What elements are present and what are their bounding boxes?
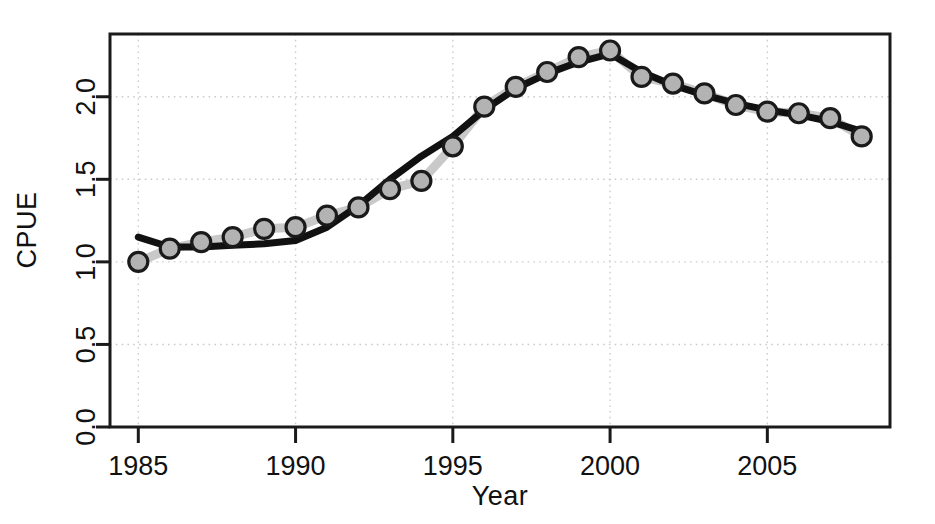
data-point-marker bbox=[412, 171, 431, 190]
y-tick-label: 2.0 bbox=[71, 78, 101, 116]
x-tick-label: 2000 bbox=[580, 451, 640, 481]
data-point-marker bbox=[192, 233, 211, 252]
y-tick-label: 1.0 bbox=[71, 243, 101, 281]
data-point-marker bbox=[286, 218, 305, 237]
data-point-marker bbox=[129, 252, 148, 271]
data-point-marker bbox=[789, 104, 808, 123]
x-tick-label: 1990 bbox=[266, 451, 326, 481]
chart-figure: 0.00.51.01.52.0 19851990199520002005 Yea… bbox=[0, 0, 935, 524]
data-point-marker bbox=[726, 96, 745, 115]
data-point-marker bbox=[443, 137, 462, 156]
data-point-marker bbox=[821, 109, 840, 128]
data-point-marker bbox=[506, 77, 525, 96]
data-point-marker bbox=[601, 41, 620, 60]
data-point-marker bbox=[223, 228, 242, 247]
y-tick-label: 1.5 bbox=[71, 161, 101, 199]
data-point-marker bbox=[569, 48, 588, 67]
cpue-line-chart: 0.00.51.01.52.0 19851990199520002005 Yea… bbox=[0, 0, 935, 524]
y-tick-label: 0.0 bbox=[71, 408, 101, 446]
x-tick-label: 1985 bbox=[108, 451, 168, 481]
x-axis-title: Year bbox=[472, 481, 529, 511]
data-point-marker bbox=[160, 239, 179, 258]
data-point-marker bbox=[349, 198, 368, 217]
data-point-marker bbox=[632, 67, 651, 86]
x-tick-label: 1995 bbox=[423, 451, 483, 481]
y-axis-title: CPUE bbox=[12, 191, 42, 268]
data-point-marker bbox=[538, 62, 557, 81]
y-tick-label: 0.5 bbox=[71, 326, 101, 364]
data-point-marker bbox=[475, 97, 494, 116]
data-point-marker bbox=[758, 102, 777, 121]
data-point-marker bbox=[695, 84, 714, 103]
x-tick-label: 2005 bbox=[737, 451, 797, 481]
data-point-marker bbox=[380, 180, 399, 199]
data-point-marker bbox=[663, 74, 682, 93]
data-point-marker bbox=[318, 206, 337, 225]
data-point-marker bbox=[255, 219, 274, 238]
data-point-marker bbox=[852, 127, 871, 146]
